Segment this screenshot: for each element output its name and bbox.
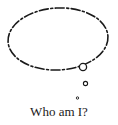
thought-dot-large xyxy=(79,63,86,70)
thought-dot-medium xyxy=(83,81,87,85)
thought-bubble-cloud xyxy=(6,5,109,72)
caption-text: Who am I? xyxy=(0,104,118,120)
thought-dot-small xyxy=(76,97,78,99)
